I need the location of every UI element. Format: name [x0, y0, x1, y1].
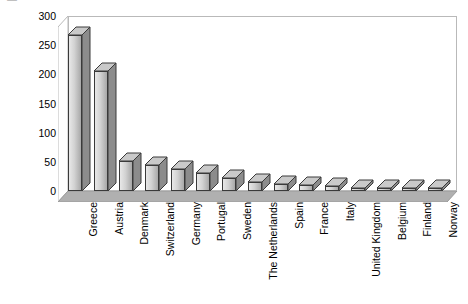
x-axis-category-label: Italy	[343, 202, 357, 302]
bar-front-face	[119, 161, 133, 191]
bar-top-face	[222, 170, 236, 178]
bar-top-face	[248, 174, 262, 182]
bar-top-face	[428, 180, 442, 188]
bar-side-face	[313, 185, 321, 191]
bar-top-face	[196, 165, 210, 173]
bar-front-face	[299, 185, 313, 191]
bar-side-face	[185, 169, 193, 191]
bar-side-face	[339, 186, 347, 191]
x-axis-category-labels: GreeceAustriaDenmarkSwitzerlandGermanyPo…	[58, 202, 468, 304]
bar	[377, 188, 391, 191]
bar-top-face	[94, 63, 108, 71]
bar-side-face	[288, 184, 296, 191]
bar-front-face	[68, 35, 82, 191]
x-axis-category-label: Sweden	[240, 202, 254, 302]
y-axis-tick-label: 200	[22, 69, 56, 79]
bar-side-face	[210, 173, 218, 191]
y-axis-tick-label: 250	[22, 40, 56, 50]
bar-top-face	[119, 153, 133, 161]
bar-top-face	[171, 161, 185, 169]
bar-front-face	[94, 71, 108, 191]
bar-front-face	[248, 182, 262, 191]
bar-side-face	[391, 188, 399, 191]
bar	[299, 185, 313, 191]
bar	[68, 35, 82, 191]
bar	[248, 182, 262, 191]
y-axis-tick-label: 0	[22, 186, 56, 196]
x-axis-category-label: United Kingdom	[369, 202, 383, 302]
y-axis-title-prefix: [m	[5, 0, 17, 1]
x-axis-category-label: Denmark	[137, 202, 151, 302]
bar-side-face	[133, 161, 141, 191]
x-axis-category-label: Finland	[420, 202, 434, 302]
bar-top-face	[377, 180, 391, 188]
bar-top-face	[274, 176, 288, 184]
bar-side-face	[262, 182, 270, 191]
bar-front-face	[171, 169, 185, 191]
plot-area	[58, 16, 458, 202]
x-axis-category-label: France	[317, 202, 331, 302]
y-axis-tick-label: 100	[22, 128, 56, 138]
bar	[222, 178, 236, 191]
bar	[119, 161, 133, 191]
bar-front-face	[325, 186, 339, 191]
bar-top-face	[402, 180, 416, 188]
y-axis-tick-label: 300	[22, 11, 56, 21]
bar-top-face	[325, 178, 339, 186]
x-axis-category-label: Belgium	[395, 202, 409, 302]
y-axis-title: [m2 / 1000 inhabitants]	[2, 0, 20, 32]
x-axis-category-label: Austria	[112, 202, 126, 302]
bar-front-face	[222, 178, 236, 191]
bar-top-face	[299, 177, 313, 185]
x-axis-category-label: Greece	[86, 202, 100, 302]
bar	[402, 188, 416, 191]
bar	[325, 186, 339, 191]
x-axis-category-label: Germany	[189, 202, 203, 302]
bar-top-face	[145, 157, 159, 165]
bar	[94, 71, 108, 191]
bar	[428, 188, 442, 191]
bar	[145, 165, 159, 191]
bar-side-face	[442, 188, 450, 191]
bar-side-face	[159, 165, 167, 191]
bar	[196, 173, 210, 191]
bar-side-face	[416, 188, 424, 191]
bar-top-face	[351, 180, 365, 188]
bar-series	[58, 16, 458, 202]
bar	[351, 188, 365, 191]
x-axis-category-label: Switzerland	[163, 202, 177, 302]
x-axis-category-label: Spain	[292, 202, 306, 302]
bar-side-face	[236, 178, 244, 191]
bar-side-face	[365, 188, 373, 191]
bar	[171, 169, 185, 191]
bar-side-face	[82, 35, 90, 191]
x-axis-category-label: Norway	[446, 202, 460, 302]
chart-figure: [m2 / 1000 inhabitants] 0501001502002503…	[0, 0, 468, 304]
x-axis-category-label: Portugal	[214, 202, 228, 302]
bar-front-face	[196, 173, 210, 191]
bar-front-face	[274, 184, 288, 191]
x-axis-category-label: The Netherlands	[266, 202, 280, 302]
bar-top-face	[68, 27, 82, 35]
y-axis-tick-label: 150	[22, 99, 56, 109]
bar	[274, 184, 288, 191]
bar-side-face	[108, 71, 116, 191]
bar-front-face	[145, 165, 159, 191]
y-axis-tick-label: 50	[22, 157, 56, 167]
y-axis-tick-labels: 050100150200250300	[22, 0, 56, 304]
